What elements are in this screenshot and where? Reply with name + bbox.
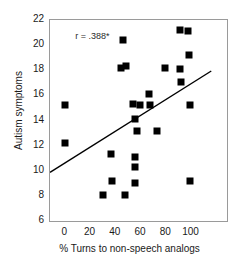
- regression-line: [50, 20, 227, 221]
- y-tick-label: 8: [38, 190, 44, 200]
- data-point: [187, 102, 194, 109]
- correlation-annotation: r = .388*: [75, 31, 109, 41]
- data-point: [154, 127, 161, 134]
- y-tick-label: 14: [33, 115, 44, 125]
- data-point: [131, 116, 138, 123]
- plot-area: r = .388*: [49, 19, 228, 222]
- data-point: [162, 64, 169, 71]
- data-point: [121, 191, 128, 198]
- y-axis-tick-labels: 6810121416182022: [0, 0, 47, 264]
- x-axis-title: % Turns to non-speech analogs: [0, 243, 241, 255]
- data-point: [177, 65, 184, 72]
- y-tick-label: 22: [33, 14, 44, 24]
- data-point: [131, 163, 138, 170]
- data-point: [108, 177, 115, 184]
- data-point: [131, 153, 138, 160]
- data-point: [62, 140, 69, 147]
- x-tick-label: 100: [182, 226, 199, 237]
- y-tick-label: 6: [38, 215, 44, 225]
- y-tick-label: 12: [33, 140, 44, 150]
- y-tick-label: 16: [33, 89, 44, 99]
- data-point: [187, 177, 194, 184]
- data-point: [184, 28, 191, 35]
- data-point: [62, 102, 69, 109]
- scatter-plot-figure: 6810121416182022 Autism symptoms r = .38…: [0, 0, 241, 264]
- data-point: [146, 102, 153, 109]
- data-point: [136, 102, 143, 109]
- data-point: [134, 127, 141, 134]
- y-tick-label: 20: [33, 39, 44, 49]
- x-tick-label: 0: [61, 226, 67, 237]
- x-tick-label: 40: [109, 226, 120, 237]
- x-tick-label: 80: [160, 226, 171, 237]
- data-point: [122, 63, 129, 70]
- data-point: [107, 151, 114, 158]
- data-point: [186, 52, 193, 59]
- data-point: [177, 27, 184, 34]
- x-tick-label: 20: [84, 226, 95, 237]
- data-point: [178, 78, 185, 85]
- y-axis-title: Autism symptoms: [13, 51, 24, 171]
- x-axis-tick-labels: 020406080100: [0, 226, 241, 240]
- data-point: [120, 37, 127, 44]
- data-point: [100, 191, 107, 198]
- y-tick-label: 18: [33, 64, 44, 74]
- x-tick-label: 60: [134, 226, 145, 237]
- data-point: [131, 180, 138, 187]
- data-point: [145, 91, 152, 98]
- y-tick-label: 10: [33, 165, 44, 175]
